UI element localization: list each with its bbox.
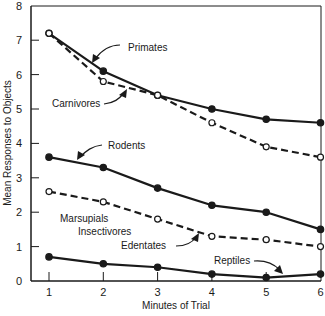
data-point bbox=[317, 226, 323, 232]
data-point bbox=[318, 244, 324, 250]
series-primates bbox=[46, 30, 324, 126]
data-point bbox=[155, 92, 161, 98]
data-point bbox=[100, 261, 106, 267]
data-point bbox=[46, 254, 52, 260]
series-line bbox=[49, 33, 321, 157]
x-tick-label: 6 bbox=[317, 286, 323, 298]
arrow-heads bbox=[77, 54, 283, 274]
data-point bbox=[100, 164, 106, 170]
x-axis-title: Minutes of Trial bbox=[142, 300, 210, 311]
data-point bbox=[46, 154, 52, 160]
data-point bbox=[263, 274, 269, 280]
data-point bbox=[209, 120, 215, 126]
label-edentates: Edentates bbox=[121, 240, 166, 251]
data-point bbox=[263, 144, 269, 150]
y-tick-label: 4 bbox=[16, 137, 22, 149]
data-point bbox=[100, 68, 106, 74]
data-point bbox=[100, 78, 106, 84]
y-tick-label: 7 bbox=[16, 34, 22, 46]
arrowhead-rodents bbox=[77, 151, 85, 160]
data-point bbox=[46, 30, 52, 36]
plot-frame bbox=[31, 6, 321, 281]
data-point bbox=[317, 120, 323, 126]
x-tick-label: 1 bbox=[46, 286, 52, 298]
x-tick-label: 5 bbox=[263, 286, 269, 298]
data-point bbox=[209, 106, 215, 112]
arrow-primates bbox=[95, 45, 120, 59]
x-tick-label: 4 bbox=[209, 286, 215, 298]
y-tick-label: 8 bbox=[16, 0, 22, 12]
data-point bbox=[263, 209, 269, 215]
series-reptiles bbox=[46, 254, 324, 281]
y-tick-label: 3 bbox=[16, 172, 22, 184]
y-tick-label: 2 bbox=[16, 206, 22, 218]
arrow-reptiles bbox=[254, 261, 280, 270]
data-point bbox=[154, 185, 160, 191]
data-point bbox=[46, 189, 52, 195]
label-reptiles: Reptiles bbox=[214, 255, 250, 266]
x-tick-label: 3 bbox=[155, 286, 161, 298]
line-chart: 012345678 123456 Minutes of Trial Mean R… bbox=[0, 0, 325, 316]
y-axis-ticks: 012345678 bbox=[16, 0, 39, 287]
label-rodents: Rodents bbox=[108, 140, 145, 151]
data-point bbox=[154, 264, 160, 270]
x-tick-label: 2 bbox=[100, 286, 106, 298]
data-point bbox=[100, 199, 106, 205]
data-point bbox=[263, 116, 269, 122]
data-point bbox=[209, 271, 215, 277]
series-layer bbox=[46, 30, 324, 281]
y-tick-label: 5 bbox=[16, 103, 22, 115]
y-tick-label: 1 bbox=[16, 241, 22, 253]
data-point bbox=[317, 271, 323, 277]
series-carnivores bbox=[46, 30, 324, 160]
label-marsupials: Marsupials bbox=[60, 213, 108, 224]
data-point bbox=[209, 233, 215, 239]
label-carnivores: Carnivores bbox=[52, 98, 100, 109]
data-point bbox=[318, 154, 324, 160]
data-point bbox=[155, 216, 161, 222]
label-insectivores: Insectivores bbox=[78, 226, 131, 237]
data-point bbox=[263, 237, 269, 243]
data-point bbox=[209, 202, 215, 208]
y-tick-label: 6 bbox=[16, 69, 22, 81]
y-tick-label: 0 bbox=[16, 275, 22, 287]
label-primates: Primates bbox=[128, 42, 167, 53]
y-axis-title: Mean Responses to Objects bbox=[2, 80, 13, 206]
